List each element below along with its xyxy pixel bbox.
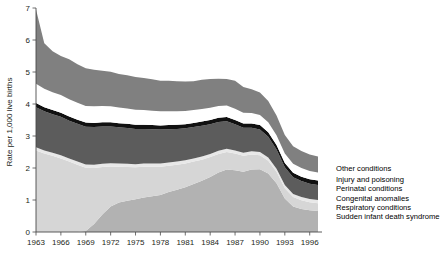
y-tick-label: 2 <box>26 164 31 173</box>
x-tick-label: 1969 <box>77 238 95 247</box>
y-tick-label: 1 <box>26 196 31 205</box>
legend-item-respiratory-conditions: Respiratory conditions <box>336 200 439 209</box>
x-tick-label: 1987 <box>226 238 244 247</box>
x-axis-ticks: 1963196619691972197519781981198419871990… <box>27 232 319 247</box>
x-tick-label: 1990 <box>251 238 269 247</box>
x-tick-label: 1966 <box>52 238 70 247</box>
legend-label: Sudden infant death syndrome <box>336 212 439 221</box>
legend-item-other-conditions: Other conditions <box>336 161 439 170</box>
y-axis-ticks: 01234567 <box>26 4 36 237</box>
y-tick-label: 4 <box>26 100 31 109</box>
y-tick-label: 6 <box>26 36 31 45</box>
stacked-area-chart: 01234567 1963196619691972197519781981198… <box>0 0 440 260</box>
chart-bands <box>36 10 318 232</box>
y-tick-label: 5 <box>26 68 31 77</box>
y-axis-label: Rate per 1,000 live births <box>5 78 14 167</box>
y-tick-label: 0 <box>26 228 31 237</box>
chart-legend: Other conditions Injury and poisoning Pe… <box>336 161 439 218</box>
x-tick-label: 1996 <box>301 238 319 247</box>
x-tick-label: 1972 <box>102 238 120 247</box>
x-tick-label: 1984 <box>201 238 219 247</box>
x-tick-label: 1978 <box>152 238 170 247</box>
legend-item-perinatal-conditions: Perinatal conditions <box>336 181 439 190</box>
chart-figure: 01234567 1963196619691972197519781981198… <box>0 0 440 260</box>
legend-item-congenital-anomalies: Congenital anomalies <box>336 191 439 200</box>
legend-item-injury-and-poisoning: Injury and poisoning <box>336 172 439 181</box>
x-tick-label: 1975 <box>127 238 145 247</box>
x-tick-label: 1993 <box>276 238 294 247</box>
x-tick-label: 1963 <box>27 238 45 247</box>
y-tick-label: 7 <box>26 4 31 13</box>
x-tick-label: 1981 <box>176 238 194 247</box>
legend-item-sudden-infant-death-syndrome: Sudden infant death syndrome <box>336 209 439 218</box>
y-tick-label: 3 <box>26 132 31 141</box>
